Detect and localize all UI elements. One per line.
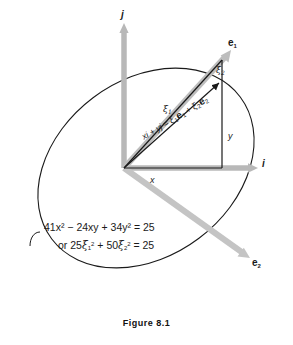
- equation-line2-suffix: = 25: [131, 239, 155, 251]
- e1-subscript: 1: [234, 43, 237, 49]
- component-label-xi1: ξ1: [163, 105, 172, 115]
- figure-vector-graphic: [0, 0, 293, 345]
- figure-caption: Figure 8.1: [0, 318, 293, 328]
- axis-label-j: j: [121, 10, 124, 20]
- equation-line2-prefix: or 25: [58, 239, 82, 251]
- e2-subscript: 2: [258, 263, 261, 269]
- callout-leader-line: [30, 232, 40, 246]
- axis-j-arrow: [119, 23, 128, 168]
- component-label-y: y: [228, 132, 233, 141]
- xi2-subscript: 2: [221, 69, 225, 76]
- axis-label-e2: e2: [252, 258, 261, 269]
- axis-label-i: i: [262, 159, 265, 169]
- component-label-xi2: ξ2: [216, 66, 225, 76]
- equation-line-principal: or 25ξ12 + 50ξ22 = 25: [44, 236, 155, 257]
- figure-8-1: j i e1 e2 x y ξ1 ξ2 xi + yj = ξ1e1 + ξ2e…: [0, 0, 293, 345]
- component-label-x: x: [150, 176, 155, 185]
- equation-line-cartesian: 41x² − 24xy + 34y² = 25: [44, 219, 155, 236]
- conic-equation-callout: 41x² − 24xy + 34y² = 25 or 25ξ12 + 50ξ22…: [44, 219, 155, 257]
- equation-line2-mid: + 50: [94, 239, 118, 251]
- axis-label-e1: e1: [228, 38, 237, 49]
